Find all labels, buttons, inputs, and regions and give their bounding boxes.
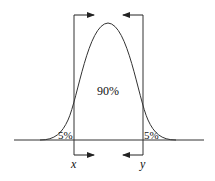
right-tail-label: 5% (144, 129, 159, 141)
y-bound-label: y (139, 157, 146, 171)
bell-curve (40, 23, 176, 140)
center-percent-label: 90% (97, 84, 119, 98)
distribution-diagram: 90% 5% 5% x y (0, 0, 215, 181)
x-bound-label: x (70, 157, 77, 171)
left-tail-label: 5% (58, 129, 73, 141)
